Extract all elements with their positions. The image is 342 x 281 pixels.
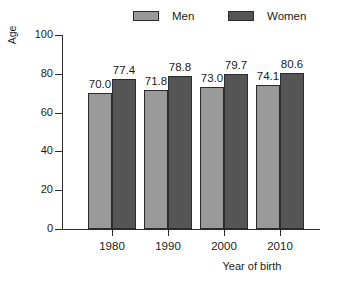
legend-label-women: Women [267,10,306,22]
legend-swatch-men-icon [133,11,159,21]
legend-swatch-women-icon [228,11,254,21]
bar-women-1990 [168,76,192,229]
bar-men-2010 [256,85,280,229]
bars-layer: 70.077.471.878.873.079.774.180.6 [0,35,342,229]
bar-chart: Men Women Age 020406080100 70.077.471.87… [0,0,342,281]
x-tick-label-1990: 1990 [138,240,198,252]
x-axis-label: Year of birth [182,260,322,272]
y-tick-label-wrap: 0 [0,229,53,230]
clipped-title [12,0,212,2]
x-tick-mark [280,229,281,236]
x-tick-label-1980: 1980 [82,240,142,252]
x-tick-mark [224,229,225,236]
legend-entry-men: Men [133,8,194,24]
x-tick-label-2000: 2000 [194,240,254,252]
x-tick-mark [112,229,113,236]
legend-label-men: Men [172,10,194,22]
legend-entry-women: Women [228,8,306,24]
bar-women-2000 [224,74,248,229]
x-tick-label-2010: 2010 [250,240,310,252]
bar-men-1980 [88,93,112,229]
bar-men-2000 [200,87,224,229]
bar-women-1980 [112,79,136,229]
bar-value-label: 78.8 [158,61,202,73]
y-tick-mark [55,229,62,230]
bar-men-1990 [144,90,168,229]
bar-value-label: 80.6 [270,58,314,70]
x-tick-mark [168,229,169,236]
chart-legend: Men Women [0,8,342,24]
bar-women-2010 [280,73,304,229]
